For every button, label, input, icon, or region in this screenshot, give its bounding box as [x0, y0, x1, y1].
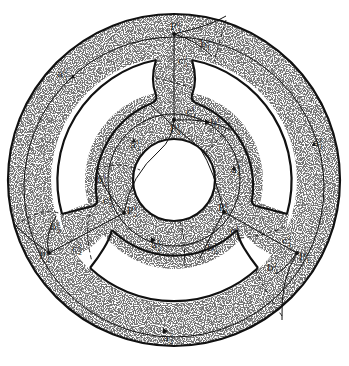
label-P2_2: P22 [39, 249, 50, 263]
surface-diagram: P23c23b21a23a21c13b11P13a13a11b13c12P12P… [0, 0, 349, 366]
label-c2_1: c12 [103, 194, 113, 208]
point-P3-2 [172, 32, 176, 36]
label-b2_2: b22 [267, 261, 278, 275]
point-P3-1 [172, 118, 176, 122]
label-P3_1: P13 [170, 122, 181, 136]
label-a3_1: a13 [130, 138, 140, 152]
label-a2_1: a12 [151, 238, 161, 252]
label-a1_1: a11 [231, 163, 241, 177]
label-b1_2: b21 [200, 37, 211, 51]
label-a3_2: a23 [57, 67, 67, 81]
label-c1_2: c21 [282, 234, 292, 248]
label-b3_2: b23 [50, 220, 61, 234]
point-P2-1 [122, 211, 126, 215]
label-a2_2: a22 [163, 331, 173, 345]
label-b1_1: b11 [210, 116, 221, 130]
label-c3_2: c23 [178, 54, 188, 68]
label-P1_1: P11 [218, 201, 229, 215]
label-P2_1: P12 [127, 204, 138, 218]
label-c2_2: c22 [72, 242, 82, 256]
label-c1_1: c11 [230, 224, 240, 238]
label-P3_2: P23 [170, 20, 181, 34]
label-c3_1: c13 [186, 105, 196, 119]
label-b2_1: b12 [207, 241, 218, 255]
label-a1_2: a21 [313, 136, 323, 150]
label-b3_1: b13 [96, 173, 107, 187]
label-P1_2: P21 [299, 250, 310, 264]
